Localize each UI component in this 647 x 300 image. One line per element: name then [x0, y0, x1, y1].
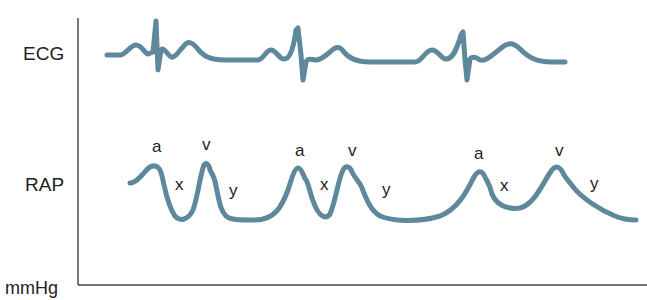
wave-label-a1: a — [152, 138, 161, 155]
wave-label-y2: y — [382, 181, 391, 198]
wave-label-a3: a — [474, 145, 483, 162]
waveform-plot — [0, 0, 647, 300]
unit-label: mmHg — [5, 278, 58, 299]
wave-label-x1: x — [175, 176, 184, 193]
wave-label-a2: a — [295, 142, 304, 159]
wave-label-x2: x — [320, 176, 329, 193]
ecg-rap-diagram: ECG RAP mmHg a x v y a x v y a x v y — [0, 0, 647, 300]
wave-label-v3: v — [555, 142, 564, 159]
wave-label-v1: v — [202, 136, 211, 153]
wave-label-v2: v — [348, 142, 357, 159]
wave-label-y1: y — [229, 182, 238, 199]
wave-label-x3: x — [500, 177, 509, 194]
rap-label: RAP — [25, 174, 64, 196]
wave-label-y3: y — [590, 175, 599, 192]
ecg-label: ECG — [23, 43, 64, 65]
ecg-trace — [107, 21, 565, 80]
